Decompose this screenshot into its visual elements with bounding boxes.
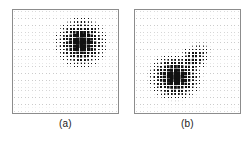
panel-b-dot-matrix [135, 10, 240, 113]
figure-root: (a) (b) [0, 0, 251, 141]
panel-a-frame [12, 9, 119, 114]
panel-group-b: (b) [134, 9, 241, 136]
panel-b-caption: (b) [134, 118, 241, 129]
panel-group-a: (a) [12, 9, 119, 136]
panel-b-frame [134, 9, 241, 114]
panel-a-caption: (a) [12, 118, 119, 129]
panel-a-dot-matrix [13, 10, 118, 113]
